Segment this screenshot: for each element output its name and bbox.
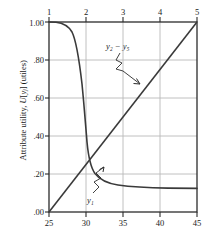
figure-container: Attribute utility, U[yj] (utiles) 1.00 .… bbox=[0, 0, 205, 235]
axis-ticks-top bbox=[49, 17, 197, 22]
axis-ticks-bottom bbox=[49, 212, 197, 217]
plot-svg bbox=[0, 0, 205, 235]
leader-line-y2-minus-y5 bbox=[116, 53, 140, 84]
